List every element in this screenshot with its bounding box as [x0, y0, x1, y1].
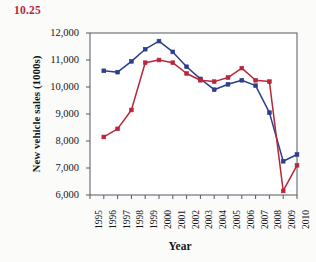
- plot-frame: [90, 33, 297, 195]
- y-tick-label-7000: 7,000: [33, 163, 79, 173]
- x-axis-title: Year: [90, 240, 270, 252]
- data-point-1999: [143, 61, 147, 65]
- x-tick-label-2000: 2000: [163, 210, 173, 229]
- data-point-1996: [102, 135, 106, 139]
- x-axis-ticks: [90, 195, 297, 199]
- x-tick-label-2003: 2003: [204, 210, 214, 229]
- y-tick-label-12000: 12,000: [33, 28, 79, 38]
- data-point-2000: [157, 39, 161, 43]
- y-tick-label-11000: 11,000: [33, 55, 79, 65]
- data-point-2008: [268, 111, 272, 115]
- data-point-2010: [295, 163, 299, 167]
- x-tick-label-1995: 1995: [94, 210, 104, 229]
- data-point-2004: [212, 80, 216, 84]
- x-tick-label-1998: 1998: [135, 210, 145, 229]
- x-tick-label-2007: 2007: [260, 210, 270, 229]
- data-point-2010: [295, 153, 299, 157]
- data-point-2001: [171, 50, 175, 54]
- y-tick-label-9000: 9,000: [33, 109, 79, 119]
- x-tick-label-2004: 2004: [218, 210, 228, 229]
- data-point-1998: [130, 59, 134, 63]
- x-tick-label-1997: 1997: [122, 210, 132, 229]
- data-point-2006: [240, 66, 244, 70]
- x-tick-label-2008: 2008: [273, 210, 283, 229]
- data-point-2006: [240, 78, 244, 82]
- x-tick-label-1999: 1999: [149, 210, 159, 229]
- x-axis-tick-labels: 1995199619971998199920002001200220032004…: [0, 202, 316, 242]
- data-point-2004: [212, 88, 216, 92]
- data-point-1997: [116, 70, 120, 74]
- data-point-2009: [281, 189, 285, 193]
- data-point-2005: [226, 76, 230, 80]
- data-point-2008: [268, 80, 272, 84]
- data-point-2001: [171, 61, 175, 65]
- y-tick-label-6000: 6,000: [33, 190, 79, 200]
- data-point-1996: [102, 69, 106, 73]
- data-point-2005: [226, 82, 230, 86]
- data-point-2002: [185, 72, 189, 76]
- x-tick-label-2006: 2006: [246, 210, 256, 229]
- figure-container: 10.25 New vehicle sales (1000s) 6,0007,0…: [0, 0, 316, 262]
- data-point-1999: [143, 47, 147, 51]
- x-tick-label-2005: 2005: [232, 210, 242, 229]
- data-point-2003: [199, 78, 203, 82]
- x-tick-label-2010: 2010: [301, 210, 311, 229]
- data-point-2000: [157, 58, 161, 62]
- data-point-1998: [130, 108, 134, 112]
- y-tick-label-8000: 8,000: [33, 136, 79, 146]
- data-point-2002: [185, 65, 189, 69]
- y-axis-ticks: [86, 33, 90, 195]
- data-point-2007: [254, 84, 258, 88]
- x-tick-label-2009: 2009: [287, 210, 297, 229]
- x-tick-label-1996: 1996: [108, 210, 118, 229]
- data-point-1997: [116, 127, 120, 131]
- x-tick-label-2002: 2002: [191, 210, 201, 229]
- x-tick-label-2001: 2001: [177, 210, 187, 229]
- data-point-2009: [281, 159, 285, 163]
- data-point-2007: [254, 78, 258, 82]
- y-tick-label-10000: 10,000: [33, 82, 79, 92]
